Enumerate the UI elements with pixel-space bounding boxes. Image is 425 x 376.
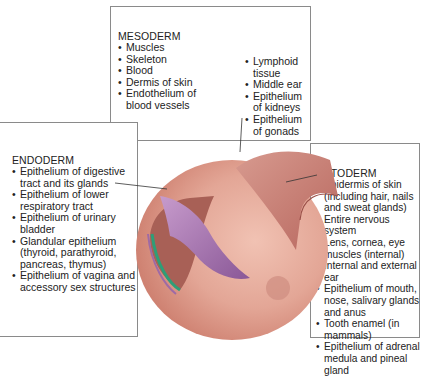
endoderm-box: ENDODERM Epithelium of digestive tract a… (0, 122, 138, 337)
list-item: Epithelium of adrenal medula and pineal … (316, 341, 421, 376)
mesoderm-list-col1: Muscles Skeleton Blood Dermis of skin En… (118, 42, 238, 112)
mesoderm-list-col2: Lymphoid tissue Middle ear Epithelium of… (245, 56, 311, 137)
list-item: Epithelium of gonads (245, 114, 308, 137)
embryo-cavity (150, 196, 214, 290)
layer-edge (148, 234, 176, 294)
list-item: Epithelium of kidneys (245, 91, 308, 114)
layer-edge (152, 234, 180, 290)
list-item: Epithelium of urinary bladder (12, 212, 138, 235)
mesoderm-flap (198, 138, 290, 278)
list-item: Epithelium of vagina and accessory sex s… (12, 270, 138, 293)
list-item: Epithelium of lower respiratory tract (12, 189, 138, 212)
list-item: Lymphoid tissue (245, 56, 308, 79)
endoderm-flap (160, 196, 250, 279)
list-item: Lens, cornea, eye muscles (internal) (316, 237, 421, 260)
list-item: Internal and external ear (316, 260, 421, 283)
list-item: Epidermis of skin (including hair, nails… (316, 179, 421, 214)
list-item: Tooth enamel (in mammals) (316, 318, 421, 341)
endoderm-list: Epithelium of digestive tract and its gl… (12, 166, 138, 294)
list-item: Epithelium of mouth, nose, salivary glan… (316, 283, 421, 318)
list-item: Endothelium of blood vessels (118, 88, 206, 111)
ectoderm-box: ECTODERM Epidermis of skin (including ha… (310, 143, 420, 338)
mesoderm-box: MESODERM Muscles Skeleton Blood Dermis o… (110, 6, 311, 141)
ectoderm-title: ECTODERM (316, 167, 377, 179)
list-item: Glandular epithelium (thyroid, parathyro… (12, 236, 138, 271)
embryo-spot (266, 276, 290, 300)
ectoderm-list: Epidermis of skin (including hair, nails… (316, 179, 421, 376)
embryo-sphere (136, 160, 328, 340)
list-item: Epithelium of digestive tract and its gl… (12, 166, 138, 189)
list-item: Entire nervous system (316, 214, 421, 237)
list-item: Muscles (118, 42, 238, 54)
